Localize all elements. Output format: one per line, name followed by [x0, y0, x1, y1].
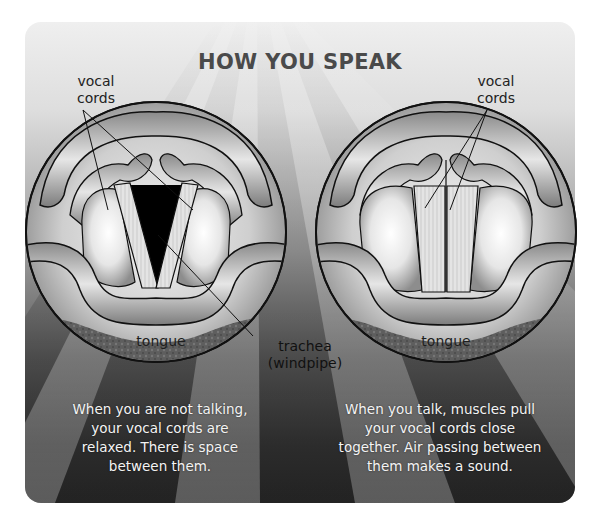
right-tongue-label: tongue	[411, 333, 481, 350]
left-larynx-figure	[26, 102, 290, 370]
left-vocal-cords-label: vocal cords	[66, 73, 126, 107]
left-tongue-label: tongue	[126, 333, 196, 350]
trachea-label: trachea (windpipe)	[255, 338, 355, 372]
left-caption: When you are not talking, your vocal cor…	[40, 400, 280, 476]
right-larynx-figure	[316, 102, 580, 370]
right-vocal-cords-label: vocal cords	[466, 73, 526, 107]
right-caption: When you talk, muscles pull your vocal c…	[310, 400, 570, 476]
